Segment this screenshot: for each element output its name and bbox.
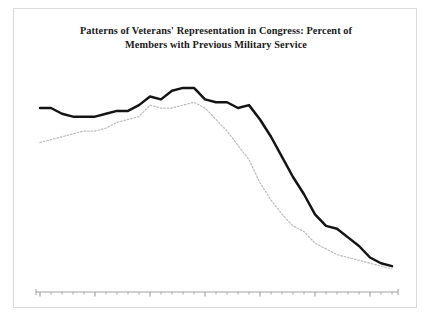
series-group (40, 88, 392, 269)
chart-plot-area (0, 0, 431, 326)
series-line-house (40, 102, 392, 269)
chart-figure: Patterns of Veterans' Representation in … (0, 0, 431, 326)
series-line-senate (40, 88, 392, 266)
axis-group (36, 289, 398, 297)
